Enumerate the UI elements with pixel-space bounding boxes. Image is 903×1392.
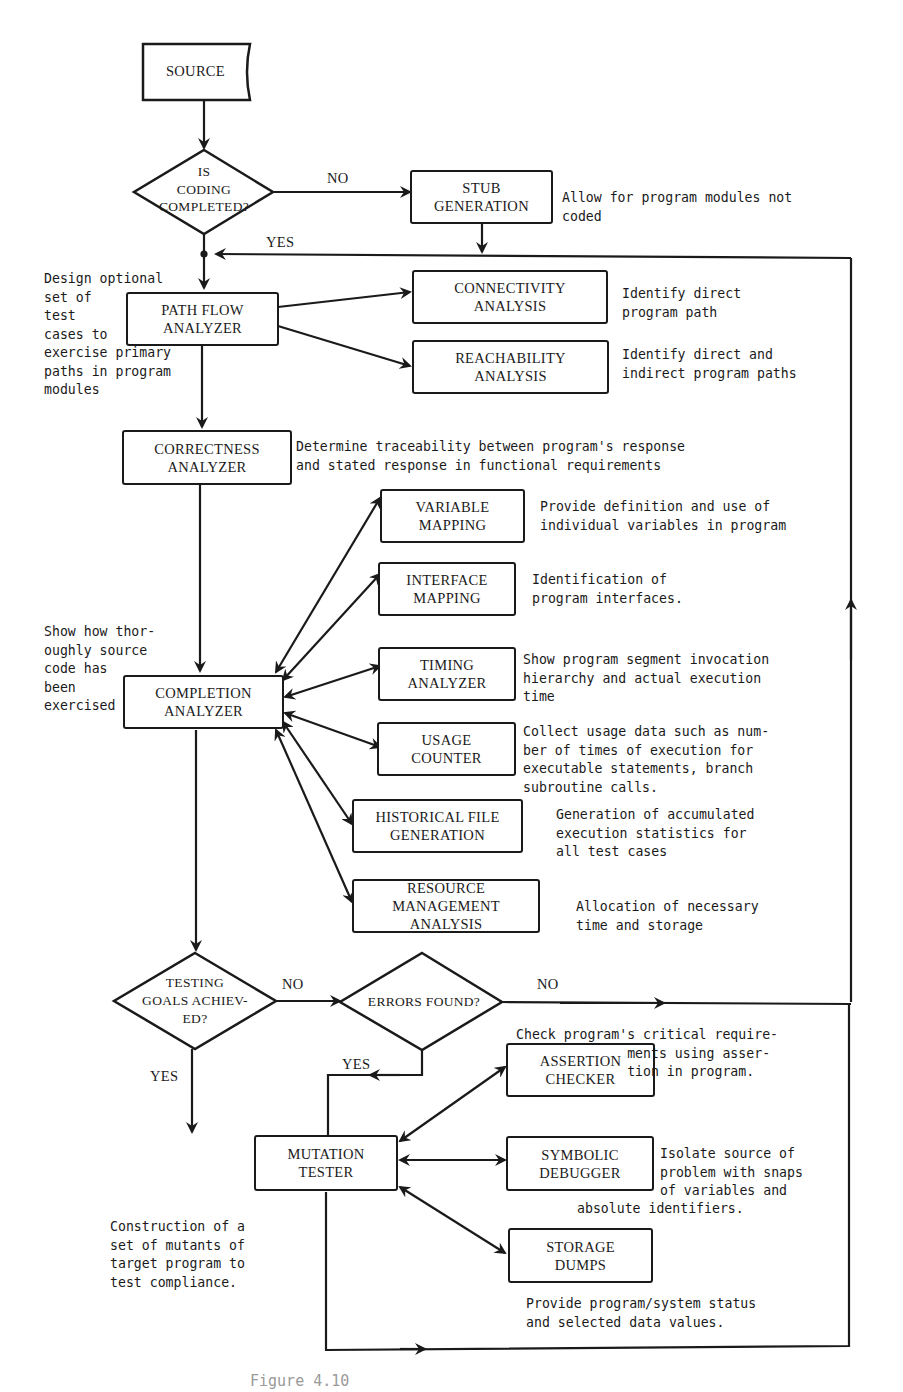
note-assertion-checker: Check program's critical require- ments …	[516, 1026, 778, 1082]
source-terminal: SOURCE	[143, 63, 248, 80]
reachability-analysis-box: REACHABILITY ANALYSIS	[412, 340, 609, 394]
note-path-flow: Design optional set of test cases to exe…	[44, 270, 171, 400]
note-resource-management: Allocation of necessary time and storage	[576, 898, 759, 935]
storage-dumps-box: STORAGE DUMPS	[508, 1228, 653, 1283]
variable-mapping-box: VARIABLE MAPPING	[380, 489, 525, 543]
note-connectivity: Identify direct program path	[622, 285, 741, 322]
note-usage-counter: Collect usage data such as num- ber of t…	[523, 723, 769, 797]
errors-found-decision: ERRORS FOUND?	[345, 993, 503, 1010]
note-symbolic-debugger-tail: absolute identifiers.	[577, 1200, 744, 1219]
interface-mapping-box: INTERFACE MAPPING	[378, 562, 516, 616]
timing-analyzer-box: TIMING ANALYZER	[378, 647, 516, 701]
historical-file-generation-box: HISTORICAL FILE GENERATION	[352, 799, 523, 853]
figure-caption: Figure 4.10	[250, 1372, 349, 1390]
note-symbolic-debugger: Isolate source of problem with snaps of …	[660, 1145, 803, 1201]
testing-goals-decision: TESTING GOALS ACHIEV- ED?	[114, 974, 276, 1028]
note-stub-generation: Allow for program modules not coded	[562, 189, 792, 226]
symbolic-debugger-box: SYMBOLIC DEBUGGER	[506, 1136, 654, 1191]
edge-label-goals-no: NO	[282, 976, 304, 993]
edge-label-goals-yes: YES	[150, 1068, 178, 1085]
note-completion: Show how thor- oughly source code has be…	[44, 623, 155, 716]
note-reachability: Identify direct and indirect program pat…	[622, 346, 797, 383]
note-storage-dumps: Provide program/system status and select…	[526, 1295, 756, 1332]
edge-label-coding-no: NO	[327, 170, 349, 187]
coding-completed-decision: IS CODING COMPLETED?	[134, 163, 274, 216]
edge-label-errors-no: NO	[537, 976, 559, 993]
connectivity-analysis-box: CONNECTIVITY ANALYSIS	[412, 270, 608, 324]
correctness-analyzer-box: CORRECTNESS ANALYZER	[122, 430, 292, 485]
mutation-tester-box: MUTATION TESTER	[254, 1135, 398, 1191]
note-correctness: Determine traceability between program's…	[296, 438, 685, 475]
edge-label-errors-yes: YES	[342, 1056, 370, 1073]
resource-management-analysis-box: RESOURCE MANAGEMENT ANALYSIS	[352, 879, 540, 933]
note-timing: Show program segment invocation hierarch…	[523, 651, 769, 707]
stub-generation-box: STUB GENERATION	[410, 170, 553, 224]
note-historical-file: Generation of accumulated execution stat…	[556, 806, 755, 862]
edge-label-coding-yes: YES	[266, 234, 294, 251]
note-mutation-tester: Construction of a set of mutants of targ…	[110, 1218, 245, 1292]
usage-counter-box: USAGE COUNTER	[377, 722, 516, 776]
note-variable-mapping: Provide definition and use of individual…	[540, 498, 786, 535]
note-interface-mapping: Identification of program interfaces.	[532, 571, 683, 608]
